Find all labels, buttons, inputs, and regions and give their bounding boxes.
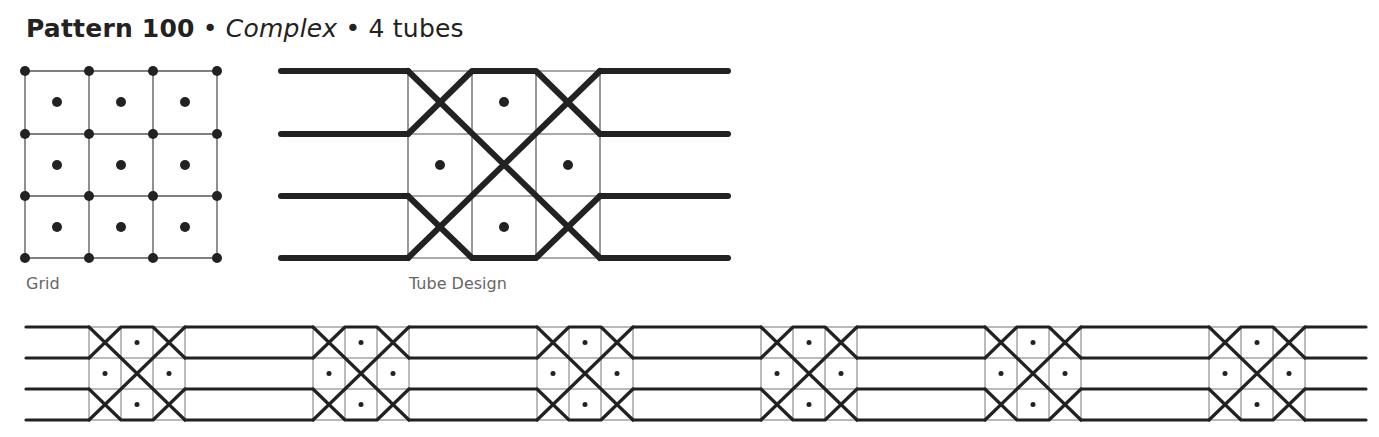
band-unit xyxy=(1209,327,1366,420)
band-unit xyxy=(89,327,313,420)
grid-dots xyxy=(20,66,222,263)
repeat-band xyxy=(26,327,1366,420)
band-unit xyxy=(985,327,1209,420)
band-unit xyxy=(537,327,761,420)
tube-design-label: Tube Design xyxy=(409,274,507,293)
grid-label: Grid xyxy=(26,274,60,293)
tube-design-diagram xyxy=(281,71,728,258)
pattern-diagrams xyxy=(0,0,1379,437)
band-unit xyxy=(313,327,537,420)
band-unit xyxy=(761,327,985,420)
